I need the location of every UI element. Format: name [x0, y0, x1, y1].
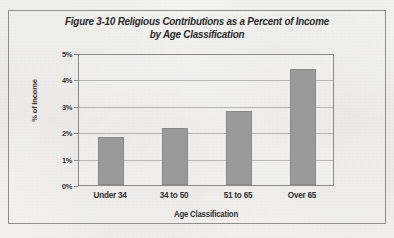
bar-slot-under-34 [79, 55, 143, 185]
bar-slot-34-to-50 [143, 55, 207, 185]
chart-title: Figure 3-10 Religious Contributions as a… [40, 15, 354, 40]
chart-title-line-2: by Age Classification [40, 28, 354, 41]
x-tick-label-under-34: Under 34 [80, 190, 141, 200]
y-tick-label-2: 2% [48, 129, 72, 138]
bar-under-34 [98, 137, 124, 185]
y-tick-label-4: 4% [48, 76, 72, 85]
y-tick-label-5: 5% [48, 50, 72, 59]
x-axis-title: Age Classification [84, 210, 327, 219]
bar-slot-over-65 [271, 55, 334, 185]
bar-over-65 [290, 69, 316, 185]
chart-title-line-1: Figure 3-10 Religious Contributions as a… [40, 15, 354, 28]
bar-34-to-50 [162, 128, 188, 185]
bar-51-to-65 [226, 111, 252, 185]
y-axis-title: % of Income [30, 64, 39, 138]
scanned-page: Figure 3-10 Religious Contributions as a… [0, 0, 394, 238]
y-tick-label-1: 1% [48, 156, 72, 165]
x-tick-label-over-65: Over 65 [272, 190, 333, 200]
plot-area [78, 54, 334, 186]
y-tick-label-3: 3% [48, 103, 72, 112]
y-tick-label-0: 0% [48, 182, 72, 191]
bar-slot-51-to-65 [207, 55, 271, 185]
x-tick-label-51-to-65: 51 to 65 [208, 190, 269, 200]
bars-layer [79, 55, 333, 185]
y-tick-mark-0 [74, 186, 78, 187]
x-tick-label-34-to-50: 34 to 50 [144, 190, 205, 200]
